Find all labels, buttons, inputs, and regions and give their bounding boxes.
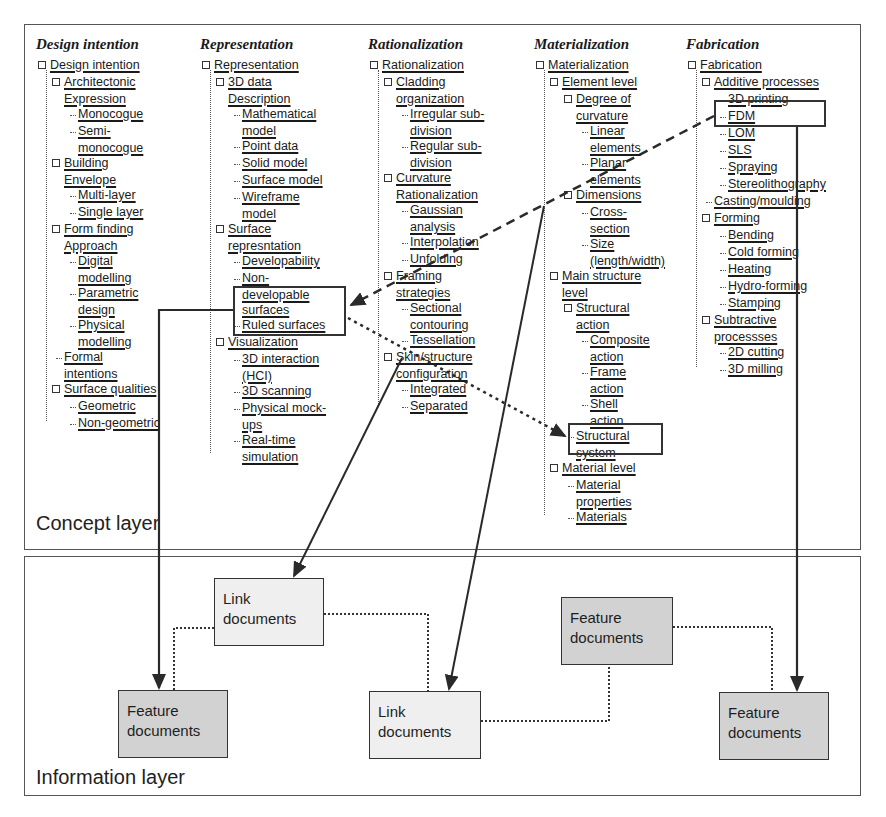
tree-root-node[interactable]: Design intention [50, 58, 140, 73]
expand-box-icon[interactable] [370, 61, 378, 69]
tree-node[interactable]: Mathematical [242, 107, 316, 122]
expand-box-icon[interactable] [202, 61, 210, 69]
tree-node[interactable]: Integrated [410, 382, 466, 397]
link-documents-box-2[interactable]: Link documents [369, 691, 481, 759]
tree-node[interactable]: Non- [242, 271, 269, 286]
tree-node[interactable]: Frame [590, 365, 626, 380]
tree-node[interactable]: Physical mock- [242, 401, 326, 416]
tree-node[interactable]: Planar [590, 156, 626, 171]
highlight-structural-system[interactable] [568, 423, 663, 455]
expand-box-icon[interactable] [52, 78, 60, 86]
tree-node[interactable]: represntation [228, 239, 301, 254]
tree-node[interactable]: analysis [410, 220, 455, 235]
tree-node[interactable]: Gaussian [410, 203, 463, 218]
expand-box-icon[interactable] [52, 385, 60, 393]
tree-node[interactable]: 3D data [228, 75, 272, 90]
tree-node[interactable]: division [410, 124, 452, 139]
tree-node[interactable]: Framing [396, 269, 442, 284]
tree-root-node[interactable]: Fabrication [700, 58, 762, 73]
tree-node[interactable]: Developability [242, 254, 320, 269]
tree-node[interactable]: Cold forming [728, 245, 799, 260]
tree-node[interactable]: Solid model [242, 156, 307, 171]
tree-node[interactable]: Single layer [78, 205, 143, 220]
tree-node[interactable]: Unfolding [410, 252, 463, 267]
tree-node[interactable]: SLS [728, 143, 752, 158]
tree-node[interactable]: Form finding [64, 222, 133, 237]
expand-box-icon[interactable] [564, 304, 572, 312]
tree-node[interactable]: curvature [576, 109, 628, 124]
expand-box-icon[interactable] [702, 78, 710, 86]
highlight-3d-printing[interactable] [714, 100, 826, 127]
tree-node[interactable]: (HCI) [242, 369, 272, 384]
tree-node[interactable]: Formal [64, 350, 103, 365]
tree-node[interactable]: Main structure [562, 269, 641, 284]
tree-node[interactable]: Approach [64, 239, 118, 254]
tree-node[interactable]: ups [242, 418, 262, 433]
tree-root-node[interactable]: Materialization [548, 58, 629, 73]
tree-node[interactable]: Linear [590, 124, 625, 139]
tree-node[interactable]: properties [576, 495, 632, 510]
tree-node[interactable]: Surface model [242, 173, 323, 188]
tree-node[interactable]: Forming [714, 211, 760, 226]
feature-documents-box-1[interactable]: Feature documents [118, 690, 228, 758]
tree-node[interactable]: Separated [410, 399, 468, 414]
tree-node[interactable]: Surface qualities [64, 382, 156, 397]
tree-node[interactable]: Structural [576, 301, 630, 316]
tree-node[interactable]: Skin/structure [396, 350, 472, 365]
tree-node[interactable]: division [410, 156, 452, 171]
tree-root-node[interactable]: Rationalization [382, 58, 464, 73]
tree-node[interactable]: Rationalization [396, 188, 478, 203]
expand-box-icon[interactable] [52, 225, 60, 233]
tree-node[interactable]: Hydro-forming [728, 279, 807, 294]
tree-node[interactable]: organization [396, 92, 464, 107]
tree-node[interactable]: Shell [590, 397, 618, 412]
tree-node[interactable]: Casting/moulding [714, 194, 811, 209]
tree-node[interactable]: Interpolation [410, 235, 479, 250]
tree-node[interactable]: action [576, 318, 609, 333]
expand-box-icon[interactable] [38, 61, 46, 69]
tree-node[interactable]: Architectonic [64, 75, 136, 90]
tree-node[interactable]: Stamping [728, 296, 781, 311]
feature-documents-box-2[interactable]: Feature documents [561, 597, 673, 665]
expand-box-icon[interactable] [536, 61, 544, 69]
tree-node[interactable]: Cladding [396, 75, 445, 90]
tree-node[interactable]: Point data [242, 139, 298, 154]
expand-box-icon[interactable] [216, 338, 224, 346]
tree-node[interactable]: LOM [728, 126, 755, 141]
tree-node[interactable]: monocogue [78, 141, 143, 156]
expand-box-icon[interactable] [384, 174, 392, 182]
tree-node[interactable]: Tessellation [410, 333, 475, 348]
tree-node[interactable]: 3D interaction [242, 352, 319, 367]
tree-node[interactable]: Heating [728, 262, 771, 277]
tree-node[interactable]: Physical [78, 318, 125, 333]
expand-box-icon[interactable] [384, 272, 392, 280]
tree-node[interactable]: Building [64, 156, 108, 171]
expand-box-icon[interactable] [550, 464, 558, 472]
tree-node[interactable]: 3D scanning [242, 384, 312, 399]
feature-documents-box-3[interactable]: Feature documents [719, 692, 829, 760]
expand-box-icon[interactable] [702, 214, 710, 222]
expand-box-icon[interactable] [702, 316, 710, 324]
tree-node[interactable]: Regular sub- [410, 139, 482, 154]
tree-node[interactable]: action [590, 382, 623, 397]
tree-node[interactable]: 3D milling [728, 362, 783, 377]
expand-box-icon[interactable] [564, 95, 572, 103]
tree-node[interactable]: Material [576, 478, 620, 493]
tree-node[interactable]: modelling [78, 271, 132, 286]
tree-node[interactable]: Irregular sub- [410, 107, 484, 122]
expand-box-icon[interactable] [550, 78, 558, 86]
tree-node[interactable]: processses [714, 330, 777, 345]
tree-node[interactable]: Semi- [78, 124, 111, 139]
tree-node[interactable]: (length/width) [590, 254, 665, 269]
tree-node[interactable]: Curvature [396, 171, 451, 186]
tree-node[interactable]: Monocogue [78, 107, 143, 122]
tree-node[interactable]: Cross- [590, 205, 627, 220]
tree-node[interactable]: Element level [562, 75, 637, 90]
tree-node[interactable]: Sectional [410, 301, 461, 316]
tree-node[interactable]: Size [590, 237, 614, 252]
tree-node[interactable]: strategies [396, 286, 450, 301]
tree-node[interactable]: Composite [590, 333, 650, 348]
tree-node[interactable]: Additive processes [714, 75, 819, 90]
link-documents-box-1[interactable]: Link documents [214, 578, 324, 646]
tree-node[interactable]: Non-geometric [78, 416, 160, 431]
